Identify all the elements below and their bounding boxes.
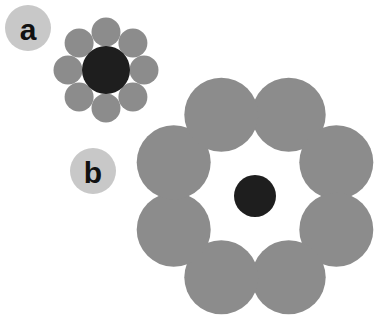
panel-label-a: a (5, 5, 51, 51)
cluster-a-shell-sphere-1 (92, 18, 121, 47)
cluster-a-shell-sphere-3 (130, 56, 159, 85)
cluster-b-shell-sphere-8 (184, 78, 258, 152)
cluster-diagram-svg: ab (0, 0, 383, 327)
cluster-b-shell-sphere-4 (252, 240, 326, 314)
cluster-a (54, 18, 159, 123)
cluster-a-shell-sphere-5 (92, 94, 121, 123)
panel-label-b-text: b (84, 156, 102, 189)
cluster-b-shell-sphere-2 (299, 125, 373, 199)
panel-label-a-text: a (20, 13, 37, 46)
cluster-b-shell-sphere-6 (137, 193, 211, 267)
panel-label-b: b (70, 148, 116, 194)
figure-canvas: ab (0, 0, 383, 327)
cluster-a-shell-sphere-7 (54, 56, 83, 85)
cluster-a-core-sphere (82, 46, 130, 94)
cluster-b-core-sphere (234, 175, 276, 217)
